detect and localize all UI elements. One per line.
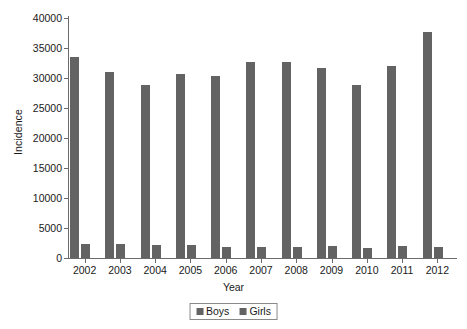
- bar-group: [139, 18, 174, 258]
- bar-group: [103, 18, 138, 258]
- y-axis-tick-label: 20000: [14, 133, 62, 143]
- legend-item-boys[interactable]: Boys: [196, 305, 229, 317]
- bar-girls-2006: [222, 247, 231, 258]
- x-axis-tick-mark: [190, 259, 191, 263]
- bar-boys-2004: [141, 85, 150, 258]
- bar-group: [315, 18, 350, 258]
- bar-group: [280, 18, 315, 258]
- bar-girls-2008: [293, 247, 302, 258]
- y-axis-tick-mark: [64, 258, 68, 259]
- y-axis-tick-mark: [64, 228, 68, 229]
- y-axis-tick-mark: [64, 48, 68, 49]
- y-axis-tick-labels: 0500010000150002000025000300003500040000: [14, 0, 62, 329]
- bar-group: [68, 18, 103, 258]
- y-axis-tick-mark: [64, 198, 68, 199]
- legend-label: Girls: [249, 305, 271, 317]
- bar-boys-2011: [387, 66, 396, 258]
- x-axis-tick-mark: [261, 259, 262, 263]
- y-axis-tick-label: 5000: [14, 223, 62, 233]
- bar-girls-2007: [257, 247, 266, 258]
- chart-legend: BoysGirls: [189, 303, 278, 320]
- bar-group: [174, 18, 209, 258]
- y-axis-tick-mark: [64, 18, 68, 19]
- x-axis-tick-mark: [226, 259, 227, 263]
- bar-group: [244, 18, 279, 258]
- bar-girls-2005: [187, 245, 196, 258]
- y-axis-tick-mark: [64, 138, 68, 139]
- bar-group: [385, 18, 420, 258]
- bar-boys-2002: [70, 57, 79, 258]
- bar-girls-2004: [152, 245, 161, 258]
- bar-group: [350, 18, 385, 258]
- legend-label: Boys: [206, 305, 229, 317]
- x-axis-tick-mark: [402, 259, 403, 263]
- legend-square-icon: [239, 308, 246, 315]
- bar-girls-2003: [116, 244, 125, 258]
- x-axis-tick-mark: [332, 259, 333, 263]
- x-axis-tick-mark: [437, 259, 438, 263]
- y-axis-tick-mark: [64, 168, 68, 169]
- y-axis-tick-label: 40000: [14, 13, 62, 23]
- y-axis-tick-label: 10000: [14, 193, 62, 203]
- x-axis-tick-mark: [155, 259, 156, 263]
- bar-boys-2012: [423, 32, 432, 258]
- bar-boys-2008: [282, 62, 291, 258]
- bar-boys-2005: [176, 74, 185, 258]
- y-axis-tick-label: 25000: [14, 103, 62, 113]
- y-axis-tick-mark: [64, 108, 68, 109]
- bar-boys-2009: [317, 68, 326, 258]
- bar-girls-2012: [434, 247, 443, 258]
- plot-area: [68, 18, 456, 258]
- bar-boys-2010: [352, 85, 361, 258]
- x-axis-tick-mark: [85, 259, 86, 263]
- y-axis-tick-label: 30000: [14, 73, 62, 83]
- bar-chart-figure: Incidence 050001000015000200002500030000…: [0, 0, 467, 329]
- x-axis-tick-mark: [296, 259, 297, 263]
- bar-boys-2003: [105, 72, 114, 258]
- x-axis-tick-mark: [120, 259, 121, 263]
- bar-girls-2009: [328, 246, 337, 258]
- x-axis-tick-mark: [367, 259, 368, 263]
- legend-square-icon: [196, 308, 203, 315]
- bar-boys-2007: [246, 62, 255, 258]
- y-axis-tick-label: 35000: [14, 43, 62, 53]
- bar-girls-2010: [363, 248, 372, 258]
- y-axis-tick-mark: [64, 78, 68, 79]
- bar-girls-2011: [398, 246, 407, 258]
- bar-group: [421, 18, 456, 258]
- y-axis-tick-label: 15000: [14, 163, 62, 173]
- bar-girls-2002: [81, 244, 90, 258]
- legend-item-girls[interactable]: Girls: [239, 305, 271, 317]
- bar-group: [209, 18, 244, 258]
- y-axis-tick-label: 0: [14, 253, 62, 263]
- x-axis-tick-label-2012: 2012: [414, 264, 460, 276]
- x-axis-title: Year: [0, 281, 467, 293]
- bar-boys-2006: [211, 76, 220, 258]
